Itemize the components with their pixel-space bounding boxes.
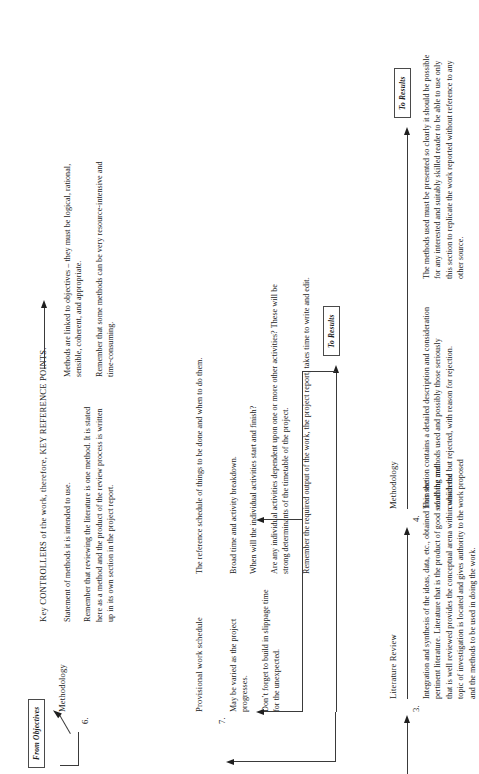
- diagram-canvas: From Objectives 6. Methodology Key CONTR…: [0, 0, 479, 774]
- section-7-paragraph-3: When will the individual activities star…: [248, 274, 259, 574]
- report-entry-line: [407, 722, 408, 774]
- exit-label-to-results-report: To Results: [394, 68, 411, 118]
- report-track-arrowhead-3-to-4-icon: [404, 527, 410, 535]
- section-7-body-b: Broad time and activity breakdown. When …: [228, 274, 312, 574]
- section-4-body-a: This section contains a detailed descrip…: [421, 301, 455, 509]
- section-4-body-b: The methods used must be presented so cl…: [421, 51, 467, 279]
- report-entry-arrowhead-icon: [404, 715, 410, 723]
- section-7-side-notes: May be varied as the project progresses.…: [228, 584, 283, 712]
- section-6-paragraph-3: Methods are linked to objectives – they …: [62, 159, 85, 377]
- riser-to-section-3: [260, 711, 302, 712]
- section-4-paragraph-2: The methods used must be presented so cl…: [421, 51, 467, 279]
- section-6-body-a: Statement of methods it is intended to u…: [62, 400, 117, 622]
- riser-to-section-4-arrowhead-icon: [256, 518, 264, 524]
- section-6-number: 6.: [80, 717, 90, 724]
- section-6-paragraph-1: Statement of methods it is intended to u…: [62, 400, 73, 622]
- report-track-exit-arrowhead-icon: [404, 127, 410, 135]
- entry-connector-diagonal: [59, 714, 71, 734]
- section-4-number: 4.: [411, 515, 421, 522]
- riser-far-left-foot: [335, 712, 336, 762]
- report-track-segment-3-to-4: [407, 534, 408, 699]
- riser-far-left: [230, 761, 335, 762]
- section-6-paragraph-4: Remember that some methods can be very r…: [94, 159, 117, 377]
- entry-label-from-objectives: From Objectives: [28, 699, 45, 768]
- section-7-heading: Provisional work schedule: [194, 617, 204, 712]
- section-6-heading: Methodology: [57, 664, 67, 712]
- section-6-paragraph-2: Remember that reviewing the literature i…: [82, 400, 116, 622]
- section-7-note-1: May be varied as the project progresses.: [228, 584, 251, 712]
- key-controllers-caption: Key CONTROLLERS of the work, therefore, …: [38, 347, 48, 622]
- section-6-body-b: Methods are linked to objectives – they …: [62, 159, 117, 377]
- track-riser-right: [302, 371, 336, 372]
- section-7-paragraph-4: Are any individual activities dependent …: [269, 274, 292, 574]
- section-7-paragraph-2: Broad time and activity breakdown.: [228, 274, 239, 574]
- riser-to-section-4: [260, 519, 302, 520]
- exit-label-to-results-proposal: To Results: [323, 306, 340, 356]
- section-4-heading: Methodology: [388, 461, 398, 509]
- section-3-number: 3.: [411, 705, 421, 712]
- section-3-heading: Literature Review: [388, 634, 398, 699]
- section-7-paragraph-1: The reference schedule of things to be d…: [194, 342, 205, 574]
- section-4-paragraph-1: This section contains a detailed descrip…: [421, 301, 455, 509]
- proposal-track-line: [336, 372, 337, 712]
- riser-to-section-3-arrowhead-icon: [256, 710, 264, 716]
- riser-far-left-arrowhead-icon: [226, 760, 234, 766]
- section-7-note-2: Don’t forget to build in slippage time f…: [260, 584, 283, 712]
- caption-arrow-line: [44, 307, 45, 369]
- section-7-number: 7.: [217, 717, 227, 724]
- report-track-line: [302, 372, 303, 712]
- caption-arrowhead-icon: [41, 300, 47, 308]
- entry-connector-line: [78, 732, 79, 766]
- report-track-exit-line: [407, 134, 408, 509]
- section-7-body-a: The reference schedule of things to be d…: [194, 342, 205, 574]
- entry-connector-drop: [60, 765, 79, 766]
